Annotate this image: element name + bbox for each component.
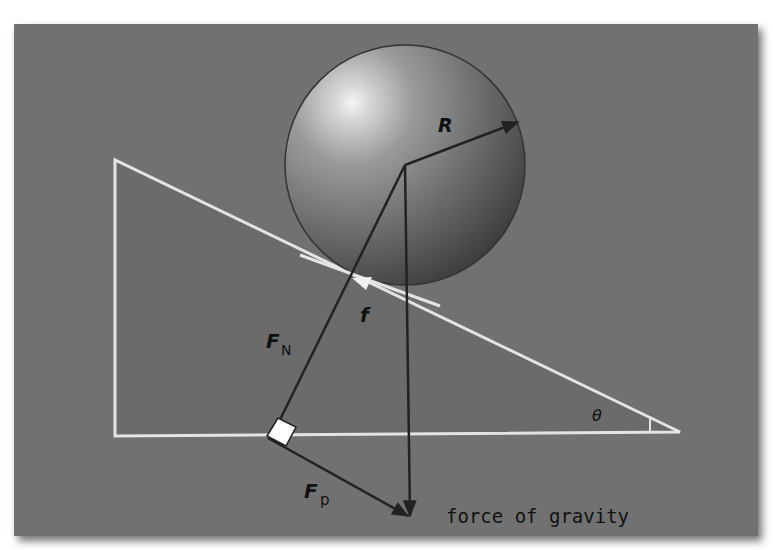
normal-force-label-main: F [266,329,280,353]
radius-label: R [438,114,453,136]
normal-force-label-sub: N [281,342,291,358]
parallel-force-label-sub: p [320,491,330,509]
angle-label: θ [592,406,602,425]
incline-sphere-diagram: R f F N F p θ force of gravity [0,0,773,550]
parallel-force-vector [268,438,408,516]
gravity-caption: force of gravity [446,505,629,527]
parallel-force-label-main: F [304,479,318,503]
